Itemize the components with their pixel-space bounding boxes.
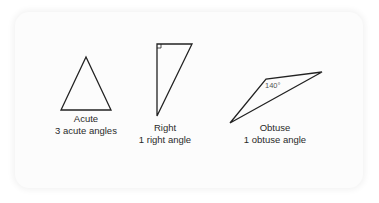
- obtuse-angle-label: 140°: [265, 81, 281, 90]
- acute-description: 3 acute angles: [46, 125, 126, 137]
- right-description: 1 right angle: [125, 134, 205, 146]
- right-triangle: [157, 44, 192, 116]
- obtuse-name: Obtuse: [225, 122, 325, 134]
- acute-triangle: [61, 57, 111, 110]
- obtuse-caption: Obtuse 1 obtuse angle: [225, 122, 325, 146]
- right-name: Right: [125, 122, 205, 134]
- acute-caption: Acute 3 acute angles: [46, 113, 126, 137]
- acute-name: Acute: [46, 113, 126, 125]
- obtuse-triangle: [230, 72, 322, 123]
- obtuse-description: 1 obtuse angle: [225, 134, 325, 146]
- right-caption: Right 1 right angle: [125, 122, 205, 146]
- triangles-diagram: [0, 0, 379, 203]
